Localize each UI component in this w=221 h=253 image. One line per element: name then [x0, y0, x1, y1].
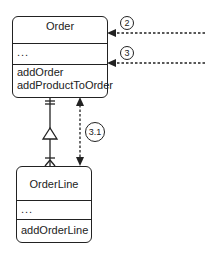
class-order-name: Order	[13, 17, 107, 43]
class-order-line-name: OrderLine	[17, 167, 91, 200]
association-line	[43, 97, 57, 166]
operation-add-order: addOrder	[17, 66, 103, 79]
operation-add-product-to-order: addProductToOrder	[17, 79, 103, 92]
message-3-1-arrow	[76, 97, 84, 166]
triangle-icon	[43, 128, 57, 139]
class-order-line-operations: addOrderLine	[17, 219, 91, 241]
class-order-line-attributes: ...	[17, 200, 91, 219]
class-order[interactable]: Order ... addOrder addProductToOrder	[12, 16, 108, 98]
operation-add-order-line: addOrderLine	[21, 220, 87, 241]
message-label-3-1: 3.1	[85, 122, 105, 142]
message-label-3: 3	[120, 46, 134, 60]
message-3-arrow	[107, 59, 205, 67]
class-order-operations: addOrder addProductToOrder	[13, 64, 107, 92]
class-order-attributes: ...	[13, 43, 107, 64]
class-order-line[interactable]: OrderLine ... addOrderLine	[16, 166, 92, 243]
message-label-2: 2	[120, 16, 134, 30]
message-2-arrow	[107, 29, 205, 37]
